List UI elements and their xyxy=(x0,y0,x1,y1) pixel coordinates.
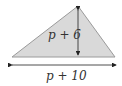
triangle-diagram: p + 6 p + 10 xyxy=(0,0,122,86)
base-label: p + 10 xyxy=(46,69,87,83)
height-label: p + 6 xyxy=(48,28,81,42)
